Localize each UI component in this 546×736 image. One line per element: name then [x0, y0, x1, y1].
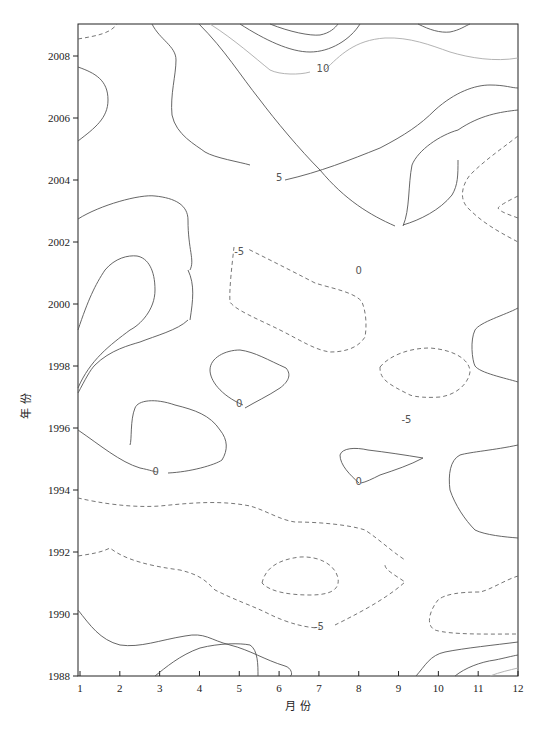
contour-labels: 1050-50-500-5 — [152, 63, 411, 632]
contour-label: 10 — [317, 63, 330, 74]
y-tick-label: 2008 — [48, 50, 71, 62]
contour-label: 0 — [236, 398, 242, 409]
x-tick-label: 4 — [197, 682, 203, 694]
y-tick-label: 1996 — [48, 422, 71, 434]
x-tick-label: 12 — [513, 682, 524, 694]
x-tick-label: 9 — [396, 682, 402, 694]
x-tick-label: 1 — [77, 682, 83, 694]
contour-label: -5 — [234, 246, 244, 257]
x-axis-title: 月 份 — [285, 700, 311, 713]
y-tick-label: 2004 — [48, 174, 71, 186]
y-tick-label: 2006 — [48, 112, 71, 124]
y-tick-label: 2002 — [48, 236, 70, 248]
contour-chart: 123456789101112 198819901992199419961998… — [0, 0, 546, 736]
y-axis: 1988199019921994199619982000200220042006… — [48, 50, 78, 682]
y-tick-label: 1992 — [48, 546, 70, 558]
y-tick-label: 1994 — [48, 484, 71, 496]
contour-label: 5 — [276, 172, 282, 183]
y-tick-label: 1988 — [48, 670, 71, 682]
contour-label: 0 — [356, 265, 362, 276]
x-tick-label: 7 — [316, 682, 322, 694]
y-axis-title: 年 份 — [19, 393, 33, 419]
contour-lines — [78, 24, 518, 676]
contour-label: -5 — [402, 414, 412, 425]
x-tick-label: 10 — [433, 682, 445, 694]
x-tick-label: 8 — [356, 682, 362, 694]
x-tick-label: 5 — [237, 682, 243, 694]
y-tick-label: 2000 — [48, 298, 71, 310]
plot-frame — [78, 24, 518, 676]
y-tick-label: 1998 — [48, 360, 71, 372]
x-tick-label: 3 — [157, 682, 163, 694]
x-tick-label: 11 — [473, 682, 484, 694]
y-tick-label: 1990 — [48, 608, 71, 620]
contour-label: 0 — [356, 476, 362, 487]
contour-label: 0 — [152, 466, 158, 477]
x-tick-label: 6 — [276, 682, 282, 694]
x-tick-label: 2 — [117, 682, 123, 694]
contour-label: -5 — [314, 621, 324, 632]
